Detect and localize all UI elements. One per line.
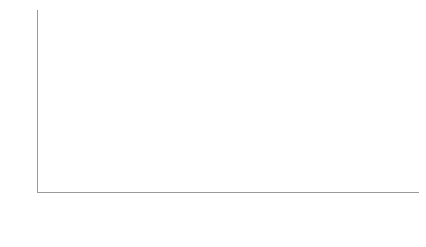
y-axis-tick-labels <box>0 10 31 192</box>
x-axis-category-labels <box>38 198 419 212</box>
x-axis-line <box>37 192 419 193</box>
bars-container <box>38 10 419 192</box>
plot-area <box>0 0 426 212</box>
stacked-bar-chart <box>0 0 426 247</box>
chart-legend <box>0 222 426 240</box>
